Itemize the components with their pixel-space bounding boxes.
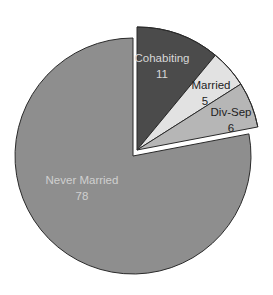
slice-label: Married bbox=[192, 79, 231, 91]
slice-label: Never Married bbox=[46, 174, 119, 186]
slice-value-label: 11 bbox=[156, 68, 168, 80]
slice-label: Cohabiting bbox=[135, 52, 190, 64]
pie-chart: Cohabiting11Married5Div-Sep6Never Marrie… bbox=[0, 0, 273, 295]
slice-value-label: 78 bbox=[76, 190, 89, 202]
slice-value-label: 5 bbox=[202, 95, 208, 107]
slice-value-label: 6 bbox=[228, 122, 234, 134]
slice-label: Div-Sep bbox=[211, 106, 252, 118]
pie-slices bbox=[15, 27, 258, 274]
